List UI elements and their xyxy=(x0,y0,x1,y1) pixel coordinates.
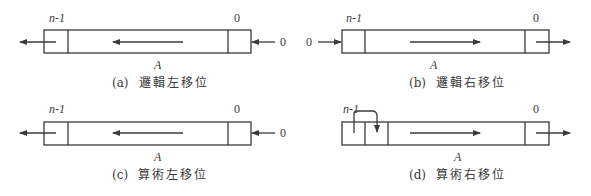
caption-tag: (d) xyxy=(409,168,426,182)
panel-a-caption: (a)邏輯左移位 xyxy=(112,76,209,90)
msb-index-label: n-1 xyxy=(49,103,65,115)
caption-text: 邏輯右移位 xyxy=(436,76,506,90)
input-zero-label: 0 xyxy=(280,127,286,139)
register-name-label: A xyxy=(430,59,437,71)
register-name-label: A xyxy=(154,151,161,163)
lsb-index-label: 0 xyxy=(234,103,240,115)
panel-d-caption: (d)算術右移位 xyxy=(409,168,506,182)
caption-tag: (b) xyxy=(409,76,426,90)
msb-index-label: n-1 xyxy=(343,103,359,115)
shift-diagrams xyxy=(0,0,591,196)
caption-text: 算術右移位 xyxy=(436,168,506,182)
input-zero-label: 0 xyxy=(280,36,286,48)
caption-text: 算術左移位 xyxy=(138,168,208,182)
lsb-index-label: 0 xyxy=(234,12,240,24)
caption-tag: (c) xyxy=(112,168,128,182)
caption-text: 邏輯左移位 xyxy=(139,76,209,90)
caption-tag: (a) xyxy=(112,76,129,90)
panel-b-caption: (b)邏輯右移位 xyxy=(409,76,506,90)
panel-b-diagram xyxy=(318,30,570,53)
msb-index-label: n-1 xyxy=(346,12,362,24)
panel-a-diagram xyxy=(20,30,275,53)
panel-c-caption: (c)算術左移位 xyxy=(112,168,208,182)
input-zero-label: 0 xyxy=(306,36,312,48)
msb-index-label: n-1 xyxy=(49,12,65,24)
lsb-index-label: 0 xyxy=(533,103,539,115)
panel-c-diagram xyxy=(20,122,275,145)
panel-d-diagram xyxy=(342,111,570,145)
register-name-label: A xyxy=(454,151,461,163)
register-name-label: A xyxy=(154,59,161,71)
lsb-index-label: 0 xyxy=(533,12,539,24)
